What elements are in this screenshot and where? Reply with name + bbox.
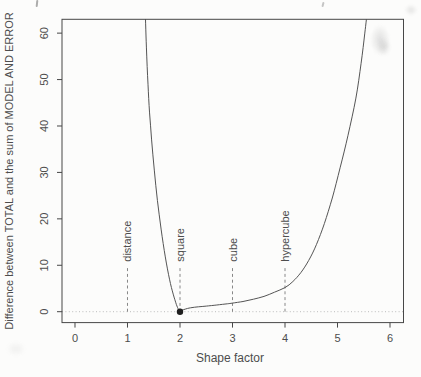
annotation-label-distance: distance: [121, 221, 133, 262]
x-tick-label: 2: [177, 332, 183, 344]
x-tick-label: 6: [387, 332, 393, 344]
y-tick-label: 30: [38, 166, 50, 178]
x-axis-title: Shape factor: [196, 351, 264, 365]
y-tick-label: 0: [38, 309, 50, 315]
annotation-label-cube: cube: [227, 238, 239, 262]
x-tick-label: 5: [334, 332, 340, 344]
x-tick-label: 4: [282, 332, 288, 344]
minimum-point-marker: [177, 308, 183, 314]
y-tick-label: 20: [38, 213, 50, 225]
y-tick-label: 40: [38, 120, 50, 132]
y-tick-label: 60: [38, 27, 50, 39]
difference-curve: [145, 5, 367, 311]
shape-factor-difference-chart: Shape factor Difference between TOTAL an…: [0, 0, 421, 377]
x-tick-label: 0: [72, 332, 78, 344]
x-tick-label: 3: [229, 332, 235, 344]
annotation-label-square: square: [174, 228, 186, 262]
plot-box: [62, 19, 404, 322]
y-tick-label: 10: [38, 259, 50, 271]
scanned-plot-page: Shape factor Difference between TOTAL an…: [0, 0, 421, 377]
y-axis-title: Difference between TOTAL and the sum of …: [3, 12, 15, 330]
y-tick-label: 50: [38, 73, 50, 85]
annotation-label-hypercube: hypercube: [279, 210, 291, 261]
x-tick-label: 1: [124, 332, 130, 344]
